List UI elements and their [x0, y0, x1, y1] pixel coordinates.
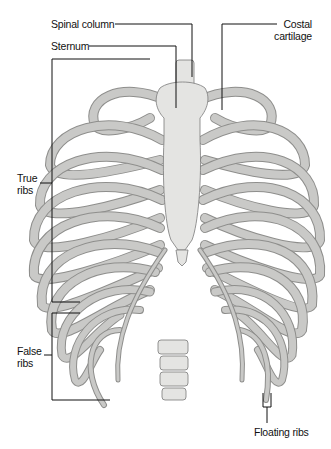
label-floating-ribs: Floating ribs [254, 426, 309, 438]
label-false-ribs: False ribs [17, 345, 42, 369]
label-true-line1: True [17, 172, 37, 184]
right-ribs [200, 92, 320, 400]
label-false-line1: False [17, 345, 42, 357]
label-spinal-column: Spinal column [51, 18, 114, 30]
sternum-shape [156, 82, 208, 266]
label-sternum: Sternum [51, 40, 89, 52]
label-false-line2: ribs [17, 357, 42, 369]
label-true-line2: ribs [17, 184, 37, 196]
rib-cage-illustration [0, 0, 331, 449]
left-ribs [34, 92, 165, 405]
label-true-ribs: True ribs [17, 172, 37, 196]
label-costal-line1: Costal [272, 18, 312, 30]
label-costal-line2: cartilage [268, 30, 312, 42]
label-costal-cartilage: Costal cartilage [272, 18, 312, 42]
